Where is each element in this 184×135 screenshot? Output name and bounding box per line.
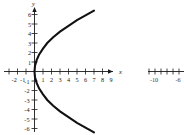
- x-tick-label: 4: [67, 76, 70, 83]
- y-tick-label: 3: [28, 40, 31, 47]
- y-tick-label: -1: [24, 78, 29, 85]
- y-axis-label: y: [31, 0, 35, 7]
- side-fragment-svg: -10 -6: [130, 0, 184, 135]
- y-tick-label: -5: [24, 116, 29, 123]
- x-axis-group: x: [4, 68, 122, 75]
- y-tick-label: 2: [28, 49, 31, 56]
- y-tick-label: 6: [28, 11, 31, 18]
- coordinate-plane-svg: x y: [0, 0, 130, 135]
- y-axis-arrowhead: [32, 7, 36, 12]
- x-tick-label: 1: [41, 76, 44, 83]
- y-tick-label: 1: [28, 59, 31, 66]
- x-tick-label: 3: [58, 76, 61, 83]
- figure-container: x y: [0, 0, 184, 135]
- x-tick-label: 6: [84, 76, 87, 83]
- y-tick-label: 4: [28, 30, 31, 37]
- x-tick-label: 5: [75, 76, 78, 83]
- main-coordinate-plot: x y: [0, 0, 130, 135]
- y-tick-label: -4: [24, 106, 29, 113]
- x-tick-label: 9: [109, 76, 112, 83]
- y-tick-label: -3: [24, 97, 29, 104]
- x-tick-label: 7: [92, 76, 95, 83]
- x-tick-label: 8: [101, 76, 104, 83]
- x-tick-label: 2: [50, 76, 53, 83]
- y-tick-label: 5: [28, 21, 31, 28]
- x-axis-arrowhead: [108, 69, 113, 73]
- y-tick-label: -2: [24, 87, 29, 94]
- x-axis-label: x: [118, 68, 122, 75]
- fragment-tick-label-minus-ten: -10: [150, 76, 158, 83]
- x-tick-label: -2: [12, 76, 17, 83]
- fragment-tick-label-minus-six: -6: [175, 76, 180, 83]
- side-axis-fragment: -10 -6: [130, 0, 184, 135]
- y-tick-label: -6: [24, 125, 29, 132]
